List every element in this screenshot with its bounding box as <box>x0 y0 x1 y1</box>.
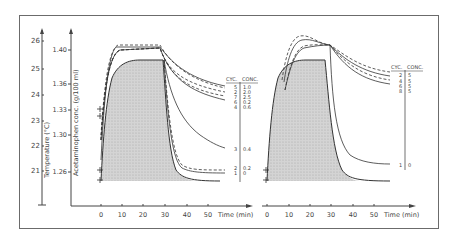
temp-tick-26: 26 <box>31 37 40 45</box>
legend-cyc: 1 <box>399 162 402 168</box>
figure: 26 25 24 23 22 21 Temperature (°C) 1.40 … <box>0 0 458 241</box>
temperature-axis-label: Temperature (°C) <box>43 122 51 179</box>
right-legend-header-cyc: CYC. <box>391 64 403 70</box>
legend-cyc: 1 <box>234 170 237 176</box>
temp-tick-22: 22 <box>31 142 40 150</box>
legend-cyc: 8 <box>399 88 402 94</box>
legend-conc: 0.4 <box>243 146 251 152</box>
legend-cyc: 4 <box>234 104 237 110</box>
legend-conc: 0 <box>243 170 246 176</box>
right-time-tick-20: 20 <box>306 211 314 219</box>
figure-frame <box>20 16 439 229</box>
temp-tick-25: 25 <box>31 65 40 73</box>
legend-cyc: 3 <box>234 146 237 152</box>
left-legend: CYC. CONC. 5 1.0 2 2.0 7 2.5 6 0.2 4 0.6… <box>226 76 259 182</box>
left-temperature-shading <box>101 60 200 181</box>
left-time-tick-10: 10 <box>118 211 126 219</box>
temp-tick-21: 21 <box>31 167 40 175</box>
left-panel: 0 10 20 30 40 50 Time (min) <box>71 45 259 219</box>
temperature-axis: 26 25 24 23 22 21 Temperature (°C) <box>31 28 51 205</box>
conc-tick-140: 1.40 <box>53 46 67 54</box>
conc-tick-126: 1.26 <box>53 168 67 176</box>
left-legend-header-conc: CONC. <box>242 76 259 82</box>
left-time-axis-label: Time (min) <box>217 211 253 219</box>
right-legend: CYC. CONC. 2 5 4 5 6 5 8 5 1 0 <box>391 64 424 170</box>
left-legend-header-cyc: CYC. <box>226 76 238 82</box>
right-time-tick-50: 50 <box>370 211 378 219</box>
legend-conc: 0.6 <box>243 104 251 110</box>
concentration-axis: 1.40 1.36 1.33 1.30 1.26 Acetaminophen c… <box>53 28 80 206</box>
conc-tick-133: 1.33 <box>53 106 67 114</box>
temp-tick-23: 23 <box>31 117 40 125</box>
left-time-tick-40: 40 <box>183 211 191 219</box>
right-temperature-shading <box>267 60 360 181</box>
conc-tick-130: 1.30 <box>53 131 67 139</box>
left-time-tick-20: 20 <box>139 211 147 219</box>
conc-tick-136: 1.36 <box>53 80 67 88</box>
left-time-tick-30: 30 <box>161 211 169 219</box>
right-legend-header-conc: CONC. <box>407 64 424 70</box>
right-time-tick-0: 0 <box>265 211 269 219</box>
right-time-axis-label: Time (min) <box>383 211 419 219</box>
legend-conc: 0 <box>408 162 411 168</box>
legend-conc: 5 <box>408 88 411 94</box>
left-time-tick-0: 0 <box>99 211 103 219</box>
right-panel: 0 10 20 30 40 50 Time (min) CYC. CON <box>262 36 424 219</box>
right-time-tick-40: 40 <box>349 211 357 219</box>
temp-tick-24: 24 <box>31 91 40 99</box>
right-time-tick-10: 10 <box>285 211 293 219</box>
left-time-tick-50: 50 <box>204 211 212 219</box>
concentration-axis-label: Acetaminophen conc. (g/100 ml) <box>72 70 80 176</box>
right-time-tick-30: 30 <box>327 211 335 219</box>
